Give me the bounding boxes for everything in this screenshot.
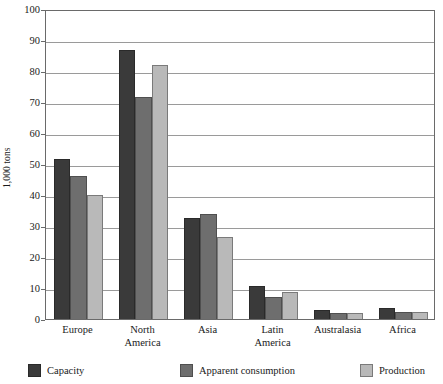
bar [184, 218, 201, 319]
bar [200, 214, 217, 319]
bar [379, 308, 396, 319]
x-axis-category-label: North America [110, 324, 175, 349]
y-axis-tick-label: 90 [0, 36, 40, 46]
x-axis-category-label: Australasia [305, 324, 370, 337]
y-axis-tick-label: 40 [0, 191, 40, 201]
plot-area [45, 10, 435, 320]
gridline [46, 290, 434, 291]
bar-group [184, 11, 234, 319]
bar-group [249, 11, 299, 319]
legend-item[interactable]: Apparent consumption [180, 364, 295, 377]
bar [314, 310, 331, 319]
bar [249, 286, 266, 319]
bar [265, 297, 282, 319]
legend-swatch-icon [28, 364, 41, 377]
bar-group [314, 11, 364, 319]
x-axis-category-label: Latin America [240, 324, 305, 349]
y-axis-tick-label: 70 [0, 98, 40, 108]
legend-swatch-icon [180, 364, 193, 377]
bar-group [119, 11, 169, 319]
y-axis-tick-label: 100 [0, 5, 40, 15]
gridline [46, 42, 434, 43]
gridline [46, 228, 434, 229]
bar [152, 65, 169, 319]
y-axis-tick-label: 60 [0, 129, 40, 139]
legend-label: Production [379, 365, 425, 376]
y-axis-tick-label: 0 [0, 315, 40, 325]
gridline [46, 166, 434, 167]
y-axis-tick-label: 80 [0, 67, 40, 77]
x-axis-category-label: Europe [45, 324, 110, 337]
gridline [46, 197, 434, 198]
gridline [46, 135, 434, 136]
bar [347, 313, 364, 319]
legend-label: Capacity [47, 365, 84, 376]
bar [87, 195, 104, 319]
bar-group [379, 11, 429, 319]
bar [412, 312, 429, 319]
bar [119, 50, 136, 319]
y-axis-tick-label: 20 [0, 253, 40, 263]
legend-item[interactable]: Production [360, 364, 425, 377]
bar [395, 312, 412, 319]
legend-item[interactable]: Capacity [28, 364, 84, 377]
bar [330, 313, 347, 319]
bar [282, 292, 299, 319]
gridline [46, 259, 434, 260]
gridline [46, 104, 434, 105]
bar-group [54, 11, 104, 319]
top-edge-artifact [0, 0, 443, 6]
x-axis-category-label: Africa [370, 324, 435, 337]
y-axis-tick-label: 50 [0, 160, 40, 170]
legend-swatch-icon [360, 364, 373, 377]
x-axis-category-label: Asia [175, 324, 240, 337]
gridline [46, 73, 434, 74]
legend-label: Apparent consumption [199, 365, 295, 376]
bar [54, 159, 71, 319]
bar [70, 176, 87, 319]
bar-chart: 1,000 tons 0102030405060708090100 Europe… [0, 0, 443, 384]
y-axis-tick-label: 30 [0, 222, 40, 232]
y-axis-tick-label: 10 [0, 284, 40, 294]
bar [217, 237, 234, 319]
chart-legend: CapacityApparent consumptionProduction [0, 362, 443, 382]
y-axis-tick-mark [41, 320, 45, 321]
bar [135, 97, 152, 319]
